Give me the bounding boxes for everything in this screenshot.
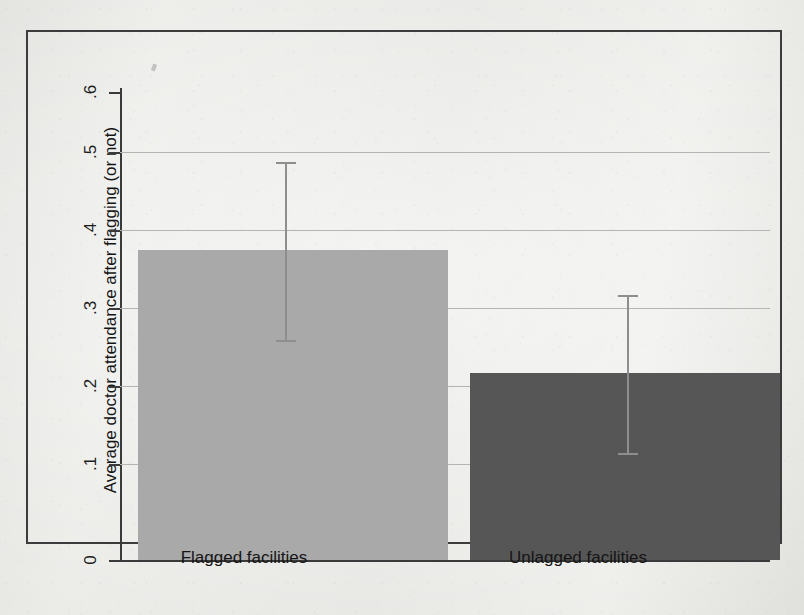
error-bar-stem xyxy=(285,162,287,342)
y-tick-label-0.6: .6 xyxy=(81,77,101,107)
y-tick-0.6 xyxy=(109,92,120,94)
y-tick-0.1 xyxy=(109,464,120,466)
gridline-0.5 xyxy=(120,152,770,153)
y-tick-label-0.3: .3 xyxy=(81,293,101,323)
error-bar-cap-lower xyxy=(618,453,638,455)
error-bar-flagged-facilities xyxy=(276,162,296,342)
gridline-0.4 xyxy=(120,230,770,231)
chart-figure-frame: Average doctor attendance after flagging… xyxy=(26,30,782,544)
y-axis-title: Average doctor attendance after flagging… xyxy=(101,75,121,545)
y-tick-label-0.1: .1 xyxy=(81,449,101,479)
plot-area: Average doctor attendance after flagging… xyxy=(120,60,770,560)
y-tick-0.3 xyxy=(109,308,120,310)
y-tick-0.4 xyxy=(109,230,120,232)
y-tick-0.2 xyxy=(109,386,120,388)
y-tick-label-0.2: .2 xyxy=(81,371,101,401)
y-tick-0.5 xyxy=(109,152,120,154)
x-category-label-unlagged: Unlagged facilities xyxy=(509,548,647,568)
y-tick-0 xyxy=(109,560,120,562)
y-tick-label-0.4: .4 xyxy=(81,215,101,245)
y-tick-label-0.5: .5 xyxy=(81,137,101,167)
y-tick-label-0: 0 xyxy=(81,545,101,575)
error-bar-unlagged-facilities xyxy=(618,295,638,455)
error-bar-cap-lower xyxy=(276,340,296,342)
x-category-label-flagged: Flagged facilities xyxy=(181,548,308,568)
error-bar-stem xyxy=(627,295,629,455)
